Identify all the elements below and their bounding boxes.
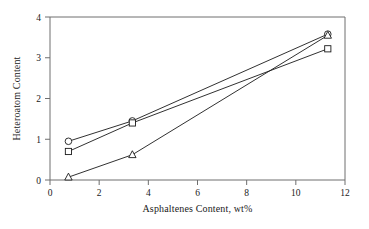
y-tick-label-3: 3: [36, 53, 41, 63]
data-point-circle: [65, 138, 72, 145]
x-tick-label-0: 0: [48, 188, 53, 198]
x-tick-label-2: 2: [97, 188, 102, 198]
x-tick-label-10: 10: [291, 188, 301, 198]
x-tick-label-12: 12: [340, 188, 350, 198]
chart-canvas: 0 1 2 3 4 0 2 4 6 8 10 12 Asphaltenes Co…: [0, 0, 369, 229]
data-point-square: [65, 148, 71, 154]
y-tick-label-2: 2: [36, 94, 41, 104]
x-tick-label-6: 6: [195, 188, 200, 198]
y-tick-label-1: 1: [36, 135, 41, 145]
x-tick-label-8: 8: [244, 188, 249, 198]
x-axis-title: Asphaltenes Content, wt%: [143, 203, 253, 214]
y-tick-label-0: 0: [36, 176, 41, 186]
chart-figure: 0 1 2 3 4 0 2 4 6 8 10 12 Asphaltenes Co…: [0, 0, 369, 229]
x-tick-label-4: 4: [146, 188, 151, 198]
data-point-square: [325, 46, 331, 52]
data-point-square: [129, 120, 135, 126]
y-axis-title: Heteroatom Content: [11, 56, 22, 140]
chart-background: [0, 0, 369, 229]
y-tick-label-4: 4: [36, 13, 41, 23]
